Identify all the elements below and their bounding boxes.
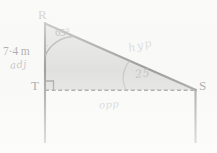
annotation-adjacent: adj (10, 59, 27, 70)
annotation-angle-s: 25 (134, 67, 150, 80)
annotation-opposite: opp (99, 99, 120, 110)
vertex-label-t: T (31, 79, 39, 92)
triangle-diagram (0, 0, 217, 153)
vertex-label-r: R (38, 8, 47, 21)
angle-label-r: 65° (55, 28, 70, 39)
diagram-canvas: R T S 7·4 m ˙ 65° adj hyp 25 opp (0, 0, 217, 153)
side-length-label-rt: 7·4 m (3, 46, 30, 58)
vertex-label-s: S (199, 79, 206, 92)
unit-tick-mark: ˙ (46, 44, 49, 53)
